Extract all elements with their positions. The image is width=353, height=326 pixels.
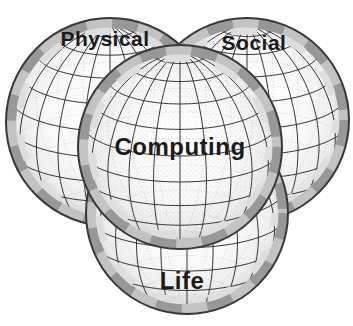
venn-spheres-figure: Physical Social Life Computing: [0, 0, 353, 326]
sphere-life-label: Life: [160, 267, 205, 294]
sphere-computing: Computing: [78, 45, 282, 249]
sphere-social-label: Social: [222, 31, 287, 54]
sphere-physical-label: Physical: [60, 27, 149, 50]
spheres-diagram: Physical Social Life Computing: [0, 0, 353, 326]
sphere-computing-label: Computing: [114, 133, 245, 160]
